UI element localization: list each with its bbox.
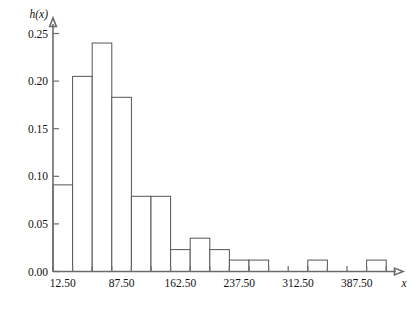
histogram-bar <box>131 196 151 271</box>
histogram-bar <box>73 76 93 271</box>
x-tick-label: 87.50 <box>109 277 135 289</box>
histogram-bar <box>151 196 171 271</box>
y-tick-label: 0.00 <box>28 266 48 278</box>
histogram-figure: 0.000.050.100.150.200.25 12.5087.50162.5… <box>0 0 418 309</box>
x-tick-label: 12.50 <box>50 277 76 289</box>
y-tick-label: 0.25 <box>28 28 48 40</box>
histogram-bar <box>53 185 73 272</box>
histogram-bar <box>249 260 269 271</box>
y-tick-label: 0.15 <box>28 123 48 135</box>
x-axis-label: x <box>400 277 407 289</box>
y-axis-label: h(x) <box>29 8 48 21</box>
y-tick-label: 0.20 <box>28 75 48 87</box>
histogram-bar <box>112 97 132 271</box>
histogram-bar <box>92 43 112 271</box>
histogram-bar <box>210 250 230 272</box>
x-tick-label: 312.50 <box>282 277 314 289</box>
y-tick-label: 0.05 <box>28 218 48 230</box>
histogram-bar <box>367 260 387 271</box>
x-tick-label: 387.50 <box>341 277 373 289</box>
x-tick-label: 162.50 <box>165 277 197 289</box>
x-tick-label: 237.50 <box>223 277 255 289</box>
y-tick-label: 0.10 <box>28 170 48 182</box>
bars-group <box>53 43 386 271</box>
histogram-bar <box>229 260 249 271</box>
histogram-bar <box>171 250 191 272</box>
histogram-bar <box>308 260 328 271</box>
histogram-plot: 0.000.050.100.150.200.25 12.5087.50162.5… <box>0 0 418 309</box>
histogram-bar <box>190 238 210 271</box>
